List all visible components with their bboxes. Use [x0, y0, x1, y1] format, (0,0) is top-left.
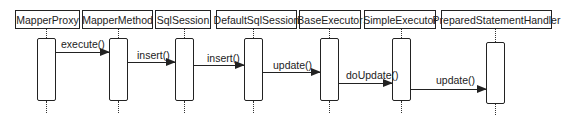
message-arrow-insert-1 — [127, 62, 175, 63]
lifeline-bottom — [184, 101, 185, 113]
lifeline-bottom — [118, 101, 119, 113]
activation-default-sql-session — [244, 38, 263, 101]
participant-mapper-method: MapperMethod — [82, 10, 153, 29]
participant-mapper-proxy: MapperProxy — [15, 10, 80, 29]
arrowhead-icon — [477, 85, 487, 93]
participant-base-executor: BaseExecutor — [299, 10, 361, 29]
lifeline-top — [253, 29, 254, 38]
activation-mapper-proxy — [37, 38, 56, 101]
lifeline-bottom — [329, 101, 330, 113]
lifeline-bottom — [46, 101, 47, 113]
message-label-update-2: update() — [436, 74, 475, 86]
lifeline-bottom — [495, 104, 496, 115]
message-label-insert-2: insert() — [207, 52, 240, 64]
lifeline-bottom — [253, 101, 254, 113]
activation-sql-session — [175, 38, 194, 101]
message-arrow-do-update — [338, 83, 392, 84]
activation-mapper-method — [109, 38, 128, 101]
message-arrow-execute — [56, 52, 109, 53]
lifeline-top — [118, 29, 119, 38]
activation-prepared-statement-handler — [486, 42, 505, 104]
sequence-diagram: MapperProxy MapperMethod SqlSession Defa… — [0, 0, 567, 121]
lifeline-top — [401, 29, 402, 38]
lifeline-top — [495, 29, 496, 42]
participant-default-sql-session: DefaultSqlSession — [216, 10, 297, 29]
message-arrow-update-2 — [410, 89, 486, 90]
participant-prepared-statement-handler: PreparedStatementHandler — [441, 10, 552, 29]
lifeline-top — [46, 29, 47, 38]
message-label-insert-1: insert() — [137, 49, 170, 61]
participant-simple-executor: SimpleExecutor — [364, 10, 436, 29]
message-label-execute: execute() — [61, 38, 105, 50]
arrowhead-icon — [311, 68, 321, 76]
lifeline-bottom — [401, 101, 402, 113]
lifeline-top — [184, 29, 185, 38]
message-arrow-update-1 — [262, 72, 320, 73]
message-arrow-insert-2 — [193, 65, 244, 66]
message-label-update-1: update() — [273, 59, 312, 71]
lifeline-top — [329, 29, 330, 38]
participant-sql-session: SqlSession — [155, 10, 211, 29]
activation-base-executor — [320, 38, 339, 101]
message-label-do-update: doUpdate() — [346, 69, 399, 81]
